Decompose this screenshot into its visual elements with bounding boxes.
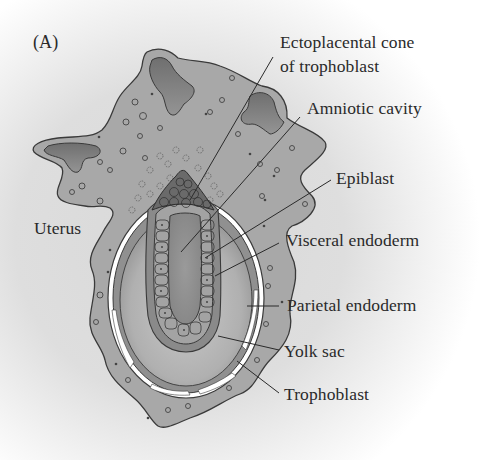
label-of-trophoblast: of trophoblast [280, 55, 379, 77]
label-visceral-endoderm: Visceral endoderm [286, 229, 419, 251]
label-ectoplacental-cone: Ectoplacental cone [280, 31, 414, 53]
panel-label: (A) [33, 31, 58, 53]
label-epiblast: Epiblast [336, 167, 394, 189]
label-amniotic-cavity: Amniotic cavity [307, 97, 422, 119]
label-trophoblast: Trophoblast [284, 383, 369, 405]
label-yolk-sac: Yolk sac [284, 340, 345, 362]
label-uterus: Uterus [34, 217, 81, 239]
amniotic-cavity [169, 213, 202, 324]
label-parietal-endoderm: Parietal endoderm [287, 294, 417, 316]
diagram-figure: (A) Ectoplacental cone of trophoblast Am… [0, 0, 490, 460]
